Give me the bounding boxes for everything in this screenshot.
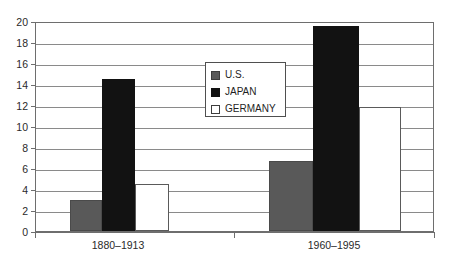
legend-label-us: U.S. [225, 70, 244, 80]
y-axis-tick-label: 4 [0, 185, 28, 196]
bar-us-group-1 [70, 200, 102, 232]
y-axis-tick-label: 18 [0, 38, 28, 49]
legend-swatch-germany-icon [211, 105, 220, 114]
legend-label-japan: JAPAN [225, 87, 257, 97]
bar-us-group-2 [269, 161, 313, 231]
x-axis-label-1: 1880–1913 [68, 240, 168, 251]
legend-item-us: U.S. [211, 67, 285, 83]
chart-legend: U.S. JAPAN GERMANY [205, 62, 286, 117]
y-axis-tick-label: 8 [0, 143, 28, 154]
legend-item-japan: JAPAN [211, 84, 285, 100]
bar-chart: 02468101214161820 1880–19131960–1995 U.S… [0, 0, 449, 260]
legend-swatch-japan-icon [211, 88, 220, 97]
legend-swatch-us-icon [211, 71, 220, 80]
gridline [36, 44, 433, 45]
bar-japan-group-2 [313, 26, 359, 231]
y-axis-tick-label: 20 [0, 17, 28, 28]
bar-japan-group-1 [102, 79, 135, 231]
y-axis-tick-label: 2 [0, 206, 28, 217]
y-axis-tick-label: 14 [0, 80, 28, 91]
bar-germany-group-1 [135, 184, 169, 231]
y-axis-tick-label: 10 [0, 122, 28, 133]
y-axis-tick-label: 0 [0, 227, 28, 238]
y-axis-tick-label: 12 [0, 101, 28, 112]
x-axis-tick [35, 233, 36, 238]
x-axis-line [35, 232, 435, 233]
x-axis-label-2: 1960–1995 [284, 240, 384, 251]
x-axis-tick [234, 233, 235, 238]
legend-label-germany: GERMANY [225, 104, 276, 114]
legend-item-germany: GERMANY [211, 101, 285, 117]
plot-area [35, 22, 434, 232]
x-axis-tick [434, 233, 435, 238]
y-axis-tick-label: 6 [0, 164, 28, 175]
y-axis-tick-label: 16 [0, 59, 28, 70]
bar-germany-group-2 [359, 107, 401, 231]
